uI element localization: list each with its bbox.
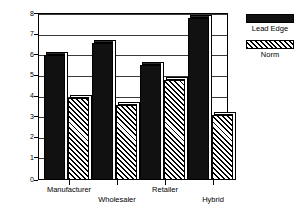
y-axis-label-0: 0	[14, 176, 34, 183]
bar-side	[233, 112, 236, 180]
bar-top-cap	[214, 112, 235, 115]
legend-entry-lead-edge: Lead Edge	[240, 14, 300, 33]
bar-norm-retailer	[164, 80, 185, 180]
y-axis-label-6: 6	[14, 51, 34, 58]
bar-norm-hybrid	[212, 115, 233, 180]
x-axis-label-wholesaler: Wholesaler	[77, 196, 157, 204]
y-axis-label-7: 7	[14, 30, 34, 37]
bar-face	[68, 98, 89, 181]
bar-norm-wholesaler	[116, 105, 137, 180]
bar-top-cap	[70, 95, 91, 98]
chart-legend: Lead Edge Norm	[240, 14, 300, 66]
bar-face	[212, 115, 233, 180]
y-tick-mark-0	[34, 180, 38, 181]
x-axis-label-retailer: Retailer	[125, 186, 205, 194]
bar-lead-edge-retailer	[140, 65, 161, 180]
legend-swatch-hatch-icon	[246, 40, 294, 49]
bar-top-cap	[118, 102, 139, 105]
y-axis-label-3: 3	[14, 113, 34, 120]
bars-layer	[38, 13, 228, 180]
bar-top-cap	[46, 52, 67, 55]
bar-face	[188, 18, 209, 180]
bar-top-cap	[142, 62, 163, 65]
bar-face	[116, 105, 137, 180]
y-axis-label-5: 5	[14, 71, 34, 78]
bar-lead-edge-wholesaler	[92, 43, 113, 180]
bar-face	[44, 55, 65, 180]
bar-face	[164, 80, 185, 180]
bar-norm-manufacturer	[68, 98, 89, 181]
bar-chart: 8 7 6 5 4 3 2 1 0	[0, 0, 307, 210]
legend-label-norm: Norm	[240, 50, 300, 59]
bar-face	[140, 65, 161, 180]
legend-entry-norm: Norm	[240, 40, 300, 59]
y-axis-label-8: 8	[14, 10, 34, 17]
y-axis-label-2: 2	[14, 133, 34, 140]
bar-top-cap	[166, 77, 187, 80]
bar-top-cap	[190, 15, 211, 18]
x-tick-mark-wholesaler	[117, 180, 118, 185]
bar-lead-edge-manufacturer	[44, 55, 65, 180]
bar-lead-edge-hybrid	[188, 18, 209, 180]
bar-top-cap	[94, 40, 115, 43]
x-tick-mark-hybrid	[213, 180, 214, 185]
y-axis-label-1: 1	[14, 154, 34, 161]
x-axis-label-manufacturer: Manufacturer	[29, 186, 109, 194]
legend-swatch-solid-icon	[246, 14, 294, 23]
legend-label-lead-edge: Lead Edge	[240, 24, 300, 33]
bar-face	[92, 43, 113, 180]
y-axis-label-4: 4	[14, 92, 34, 99]
x-axis-label-hybrid: Hybrid	[173, 196, 253, 204]
